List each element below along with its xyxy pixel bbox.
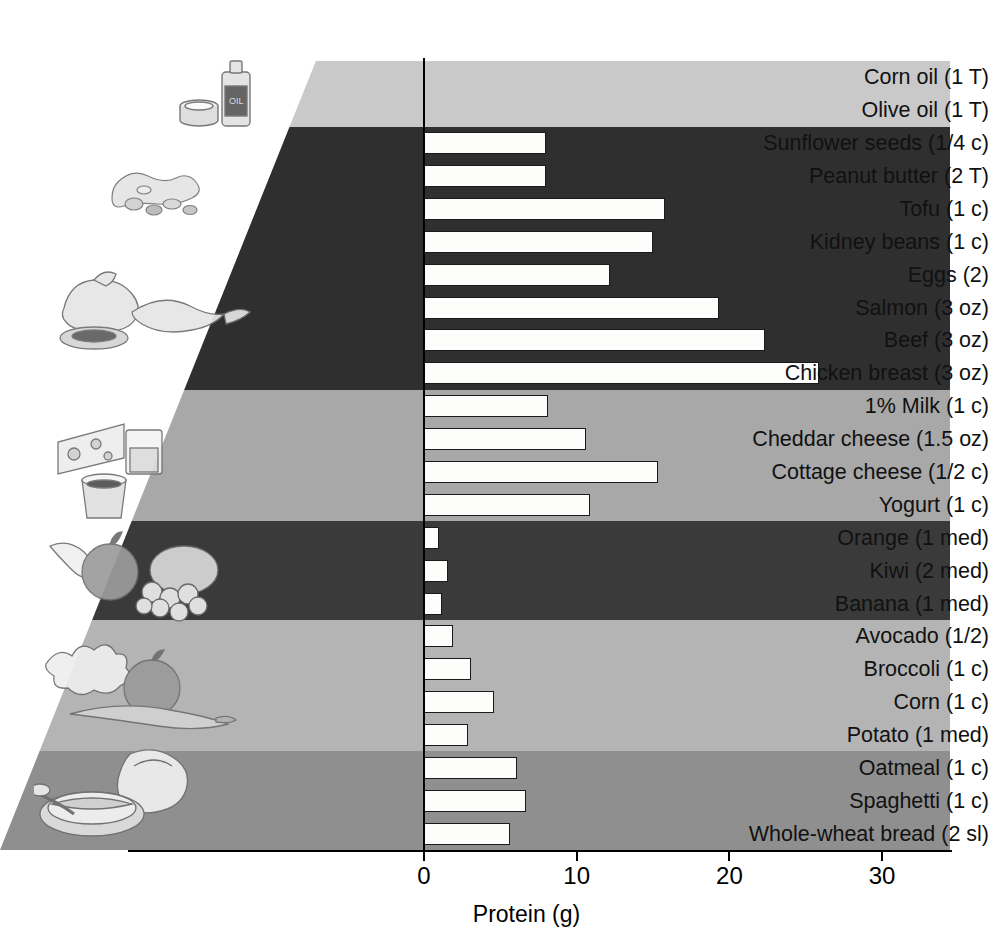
x-axis-ticks: 0102030 [0,0,997,951]
x-tick-label: 10 [547,862,607,890]
x-tick [881,852,883,861]
x-axis-title: Protein (g) [0,901,997,928]
x-tick [423,852,425,861]
x-tick-label: 0 [394,862,454,890]
x-tick [728,852,730,861]
x-axis-title-text: Protein (g) [473,901,580,927]
x-tick-label: 30 [852,862,912,890]
x-tick [576,852,578,861]
protein-content-bar-chart: Corn oil (1 T)Olive oil (1 T)Sunflower s… [0,0,997,951]
x-tick-label: 20 [699,862,759,890]
